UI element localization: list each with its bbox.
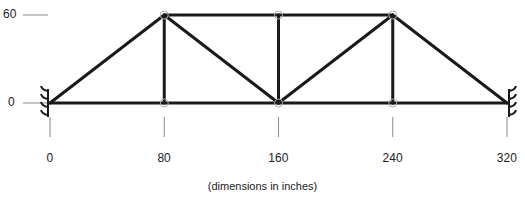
- caption: (dimensions in inches): [0, 180, 525, 192]
- truss-member: [393, 15, 507, 103]
- fixed-support-icon: [41, 86, 48, 117]
- x-axis-label: 80: [157, 151, 170, 165]
- fixed-support-icon: [509, 86, 516, 117]
- y-axis-label: 0: [8, 95, 15, 109]
- truss-member: [164, 15, 278, 103]
- x-axis-label: 240: [383, 151, 403, 165]
- truss-member: [279, 15, 393, 103]
- x-axis-label: 0: [47, 151, 54, 165]
- truss-diagram: [0, 0, 525, 205]
- truss-member: [50, 15, 164, 103]
- x-axis-label: 160: [268, 151, 288, 165]
- x-axis-label: 320: [497, 151, 517, 165]
- y-axis-label: 60: [3, 7, 16, 21]
